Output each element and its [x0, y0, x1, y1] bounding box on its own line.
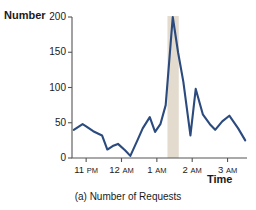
- y-tick-label: 100: [30, 82, 66, 93]
- y-tick-label: 200: [30, 11, 66, 22]
- y-tick-label: 0: [30, 152, 66, 163]
- x-tick-label: 3 AM: [212, 164, 244, 175]
- x-tick-label: 1 AM: [141, 164, 173, 175]
- chart-axes: [72, 17, 247, 158]
- x-tick-label: 2 AM: [176, 164, 208, 175]
- x-tick-label: 11 PM: [70, 164, 102, 175]
- x-tick-label: 12 AM: [105, 164, 137, 175]
- y-tick-label: 150: [30, 46, 66, 57]
- highlight-band: [167, 16, 178, 158]
- data-line-series: [74, 17, 245, 156]
- line-chart-plot: [0, 0, 256, 210]
- figure-caption: (a) Number of Requests: [0, 191, 256, 202]
- axis-tick-marks: [68, 17, 256, 162]
- y-tick-label: 50: [30, 117, 66, 128]
- figure-number-of-requests: Number Time 050100150200 11 PM12 AM1 AM2…: [0, 0, 256, 210]
